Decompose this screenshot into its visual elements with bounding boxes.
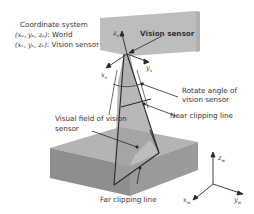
legend-sensor: (xᵥ, yᵥ, zᵥ): Vision sensor [15,40,99,49]
legend-title: Coordinate system [20,20,88,29]
label-near-clipping: Near clipping line [170,111,233,120]
vision-sensor-diagram: zv xv yv zw xw yw Coordinate system (xᵤ,… [0,0,254,214]
label-rotate-angle-line1: Rotate angle of [182,86,237,95]
world-axis-x-label: xw [183,196,191,205]
world-axis-y-label: yw [233,196,242,205]
label-far-clipping: Far clipping line [100,195,157,204]
sensor-axis-y-label: yv [145,64,153,73]
label-visual-field-line1: Visual field of vision [55,114,127,123]
rotate-ref-line-left [109,70,117,115]
label-vision-sensor: Vision sensor [140,29,195,38]
label-rotate-angle-line2: vision sensor [182,95,229,104]
legend-world: (xᵤ, yᵤ, zᵤ): World [15,30,73,39]
world-axis-z-label: zw [217,154,225,163]
label-visual-field-line2: sensor [55,124,79,133]
coordinate-legend: Coordinate system (xᵤ, yᵤ, zᵤ): World (x… [15,20,99,49]
ceiling-block-side [196,11,200,52]
sensor-axis-x-label: xv [101,71,108,80]
